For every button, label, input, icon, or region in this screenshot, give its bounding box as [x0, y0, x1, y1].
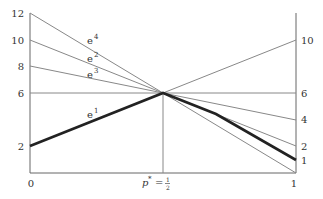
left-tick: 2: [18, 141, 24, 152]
right-tick: 10: [301, 35, 314, 46]
svg-text:e: e: [87, 109, 93, 120]
left-tick: 12: [11, 8, 24, 19]
svg-text:e: e: [87, 35, 93, 46]
svg-text:1: 1: [94, 107, 98, 115]
diagram-canvas: 12 10 8 6 2 10 6 4 2 1 0 1 p * = 1 2 e 4…: [0, 0, 323, 199]
p-star-label: p * = 1 2: [142, 175, 170, 191]
svg-text:2: 2: [166, 184, 170, 191]
svg-text:*: *: [148, 175, 152, 183]
svg-text:1: 1: [166, 176, 170, 183]
right-tick: 6: [301, 88, 307, 99]
left-tick: 10: [11, 35, 24, 46]
svg-text:4: 4: [94, 33, 99, 41]
svg-text:e: e: [87, 53, 93, 64]
svg-text:=: =: [155, 177, 163, 188]
right-tick: 2: [301, 141, 307, 152]
label-e3: e 3: [87, 67, 98, 80]
x-tick-0: 0: [28, 178, 34, 189]
svg-text:e: e: [87, 69, 93, 80]
left-tick: 6: [18, 88, 24, 99]
svg-text:3: 3: [94, 67, 98, 75]
label-e4: e 4: [87, 33, 99, 46]
label-e2: e 2: [87, 51, 98, 64]
svg-text:2: 2: [94, 51, 98, 59]
left-tick: 8: [18, 61, 24, 72]
right-tick: 4: [301, 114, 307, 125]
x-tick-1: 1: [291, 178, 297, 189]
right-tick: 1: [301, 155, 307, 166]
